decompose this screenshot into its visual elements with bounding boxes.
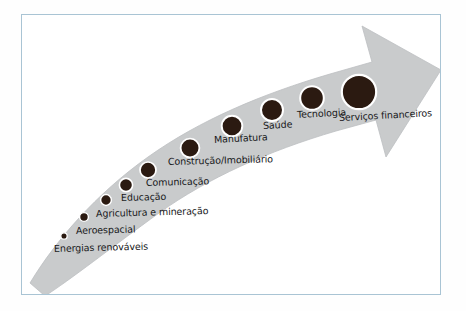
- label-construcao-imobiliario: Construção/Imobiliário: [168, 154, 273, 166]
- label-comunicacao: Comunicação: [146, 176, 209, 187]
- bubble-comunicacao: [140, 162, 156, 178]
- growth-arrow-figure: Energias renováveis Aeroespacial Agricul…: [0, 0, 466, 311]
- bubble-educacao: [119, 178, 132, 191]
- bubble-servicos-financeiros: [342, 75, 376, 109]
- label-aeroespacial: Aeroespacial: [76, 224, 136, 235]
- bubble-agricultura-e-mineracao: [101, 195, 112, 206]
- bubble-aeroespacial: [80, 213, 89, 222]
- bubble-tecnologia: [300, 86, 324, 110]
- bubble-saude: [261, 99, 283, 121]
- label-educacao: Educação: [121, 192, 166, 203]
- label-saude: Saúde: [263, 119, 293, 130]
- bubble-energias-renovaveis: [61, 233, 67, 239]
- label-energias-renovaveis: Energias renováveis: [54, 242, 148, 254]
